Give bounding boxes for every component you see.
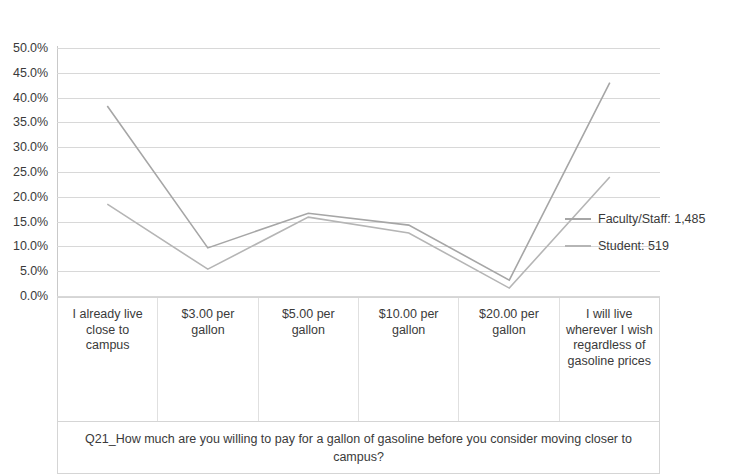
legend-label: Student: 519 — [598, 239, 669, 253]
y-axis-tick-label: 15.0% — [13, 215, 48, 229]
x-axis-category-cell: $20.00 per gallon — [459, 298, 559, 421]
x-axis-category-table: I already live close to campus$3.00 per … — [57, 297, 660, 422]
legend-line-swatch-icon — [565, 218, 591, 220]
x-axis-category-label: $5.00 per gallon — [265, 307, 352, 421]
chart-legend: Faculty/Staff: 1,485Student: 519 — [565, 205, 737, 259]
series-line — [107, 177, 610, 288]
y-axis-tick-label: 20.0% — [13, 190, 48, 204]
y-axis-tick-label: 40.0% — [13, 91, 48, 105]
legend-line-swatch-icon — [565, 245, 591, 247]
y-axis-tick-label: 30.0% — [13, 140, 48, 154]
x-axis-category-cell: $3.00 per gallon — [158, 298, 258, 421]
y-axis-tick-label: 25.0% — [13, 165, 48, 179]
x-axis-category-cell: $5.00 per gallon — [259, 298, 359, 421]
x-axis-category-label: I already live close to campus — [64, 307, 151, 421]
y-axis-tick-label: 10.0% — [13, 239, 48, 253]
y-axis-tick-label: 50.0% — [13, 41, 48, 55]
legend-label: Faculty/Staff: 1,485 — [598, 212, 705, 226]
legend-item: Student: 519 — [565, 232, 737, 259]
x-axis-title-box: Q21_How much are you willing to pay for … — [57, 422, 660, 474]
x-axis-category-cell: $10.00 per gallon — [359, 298, 459, 421]
x-axis-category-cell: I will live wherever I wish regardless o… — [560, 298, 659, 421]
x-axis-category-label: $20.00 per gallon — [465, 307, 552, 421]
x-axis-category-label: $3.00 per gallon — [164, 307, 251, 421]
y-axis-tick-label: 0.0% — [20, 289, 48, 303]
x-axis-title: Q21_How much are you willing to pay for … — [73, 430, 644, 466]
y-axis-tick-label: 35.0% — [13, 115, 48, 129]
series-line — [107, 83, 610, 280]
y-axis-tick-label: 5.0% — [20, 264, 48, 278]
x-axis-category-cell: I already live close to campus — [58, 298, 158, 421]
x-axis-category-label: I will live wherever I wish regardless o… — [566, 307, 653, 421]
legend-item: Faculty/Staff: 1,485 — [565, 205, 737, 232]
y-axis-tick-label: 45.0% — [13, 66, 48, 80]
chart-container: 50.0%45.0%40.0%35.0%30.0%25.0%20.0%15.0%… — [0, 0, 737, 476]
x-axis-category-label: $10.00 per gallon — [365, 307, 452, 421]
y-axis-labels: 50.0%45.0%40.0%35.0%30.0%25.0%20.0%15.0%… — [0, 0, 52, 310]
